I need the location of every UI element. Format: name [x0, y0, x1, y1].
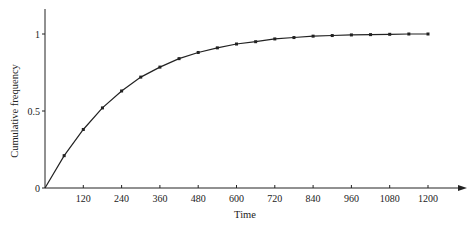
y-ticks: 00.51 — [28, 29, 46, 194]
data-point-marker — [350, 33, 353, 36]
data-point-marker — [139, 76, 142, 79]
x-axis-arrow-icon — [458, 185, 467, 191]
x-tick-label: 1080 — [380, 193, 400, 204]
data-point-marker — [388, 33, 391, 36]
data-point-marker — [197, 51, 200, 54]
data-point-marker — [235, 43, 238, 46]
x-tick-label: 720 — [267, 193, 282, 204]
y-tick-label: 0.5 — [28, 106, 41, 117]
x-tick-label: 480 — [191, 193, 206, 204]
data-point-marker — [312, 35, 315, 38]
data-point-marker — [407, 33, 410, 36]
y-axis-label: Cumulative frequency — [9, 63, 20, 157]
cumulative-frequency-line — [45, 34, 428, 188]
x-tick-label: 840 — [306, 193, 321, 204]
data-point-marker — [331, 34, 334, 37]
data-point-marker — [273, 37, 276, 40]
data-point-marker — [254, 40, 257, 43]
data-point-marker — [63, 154, 66, 157]
data-point-marker — [292, 36, 295, 39]
data-point-marker — [427, 33, 430, 36]
axes — [45, 9, 467, 191]
x-tick-label: 120 — [76, 193, 91, 204]
x-tick-label: 600 — [229, 193, 244, 204]
y-tick-label: 1 — [35, 29, 40, 40]
x-tick-label: 960 — [344, 193, 359, 204]
x-tick-label: 240 — [114, 193, 129, 204]
data-point-marker — [120, 89, 123, 92]
x-tick-label: 360 — [152, 193, 167, 204]
data-point-marker — [82, 128, 85, 131]
x-tick-label: 1200 — [418, 193, 438, 204]
data-point-marker — [369, 33, 372, 36]
data-point-marker — [101, 106, 104, 109]
x-axis-label: Time — [234, 209, 256, 220]
data-point-marker — [158, 66, 161, 69]
cumulative-frequency-chart: 12024036048060072084096010801200 00.51 T… — [0, 0, 476, 229]
y-tick-label: 0 — [35, 183, 40, 194]
data-point-marker — [178, 57, 181, 60]
data-point-marker — [216, 46, 219, 49]
